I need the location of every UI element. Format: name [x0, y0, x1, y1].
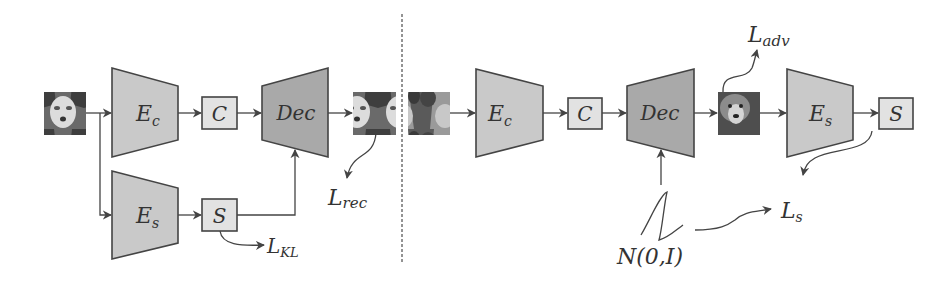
architecture-diagram: Ec C Dec Es S Lrec LKL: [0, 0, 950, 282]
edge-output-to-lrec: [347, 133, 376, 178]
style-code-left-label: S: [213, 204, 227, 228]
loss-kl-label: LKL: [266, 234, 299, 260]
edge-prior-to-ls: [695, 209, 771, 230]
input-image-dog-face: [44, 92, 86, 135]
decoder-right-label: Dec: [639, 101, 679, 125]
edge-input-to-es: [100, 113, 111, 215]
content-code-left-label: C: [212, 102, 227, 126]
right-panel: Ec C Dec Es S Ladv Ls N(0,I): [408, 22, 913, 269]
left-panel: Ec C Dec Es S Lrec LKL: [44, 68, 396, 260]
loss-adv-label: Ladv: [747, 22, 790, 50]
edge-generated-to-ladv: [723, 50, 757, 92]
generated-image-dog: [718, 92, 760, 135]
content-code-right-label: C: [577, 102, 592, 126]
loss-rec-label: Lrec: [327, 185, 368, 212]
output-image-reconstructed: [353, 92, 396, 135]
input-image-dog: [408, 92, 450, 135]
edge-s-to-dec: [237, 150, 295, 215]
gaussian-sample-icon: [641, 192, 683, 240]
decoder-left-label: Dec: [275, 101, 315, 125]
loss-style-label: Ls: [780, 198, 803, 225]
prior-distribution-label: N(0,I): [616, 244, 683, 269]
style-code-right-label: S: [889, 102, 903, 126]
edge-s-to-lkl: [220, 231, 264, 245]
